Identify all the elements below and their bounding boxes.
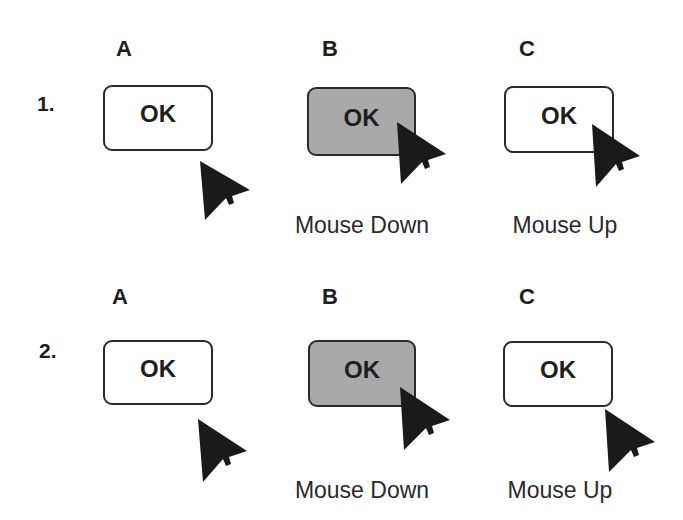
ok-button-2c[interactable]: OK [503, 341, 613, 407]
ok-button-label: OK [344, 356, 380, 384]
ok-button-1b-pressed[interactable]: OK [307, 87, 416, 156]
mouse-cursor-icon [198, 419, 247, 482]
column-label-a: A [109, 36, 139, 62]
column-label-a: A [105, 284, 135, 310]
column-label-b: B [315, 284, 345, 310]
ok-button-label: OK [540, 356, 576, 384]
caption-mouse-down-2: Mouse Down [272, 477, 452, 504]
column-label-c: C [512, 284, 542, 310]
caption-mouse-down-1: Mouse Down [272, 212, 452, 239]
caption-mouse-up-2: Mouse Up [480, 477, 640, 504]
row-label-2: 2. [39, 339, 57, 363]
cursor-layer [0, 0, 683, 520]
caption-mouse-up-1: Mouse Up [485, 212, 645, 239]
ok-button-label: OK [140, 100, 176, 128]
ok-button-1a[interactable]: OK [103, 85, 213, 151]
ok-button-label: OK [344, 104, 380, 132]
row-label-1: 1. [37, 92, 55, 116]
ok-button-label: OK [541, 102, 577, 130]
column-label-b: B [315, 36, 345, 62]
ok-button-label: OK [140, 355, 176, 383]
ok-button-2b-pressed[interactable]: OK [308, 340, 416, 407]
mouse-cursor-icon [605, 409, 655, 472]
column-label-c: C [512, 36, 542, 62]
ok-button-1c[interactable]: OK [504, 86, 614, 153]
mouse-cursor-icon [200, 161, 250, 220]
ok-button-2a[interactable]: OK [103, 340, 213, 405]
